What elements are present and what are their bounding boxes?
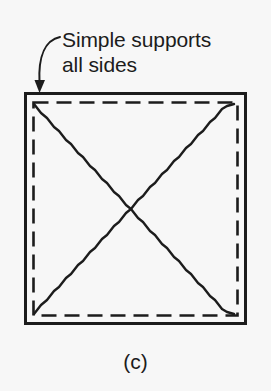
leader-curve-icon (39, 37, 60, 83)
plate-outer-boundary (26, 94, 246, 324)
figure-caption: (c) (0, 350, 271, 374)
simple-support-dashed-rect (34, 103, 238, 316)
support-annotation: Simple supports all sides (62, 27, 211, 77)
support-annotation-line-1: Simple supports (62, 27, 211, 52)
figure-page: Simple supports all sides (c) (0, 0, 271, 391)
leader-arrowhead-icon (35, 80, 46, 93)
support-annotation-line-2: all sides (62, 52, 211, 77)
